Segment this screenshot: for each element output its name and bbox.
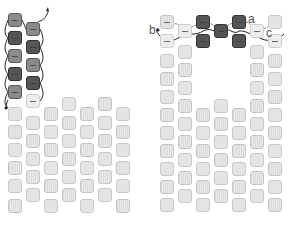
- bead: [250, 24, 264, 38]
- bead: [160, 126, 174, 140]
- bead: [44, 143, 58, 157]
- bead: [98, 152, 112, 166]
- bead: [44, 125, 58, 139]
- bead: [196, 144, 210, 158]
- bead: [232, 180, 246, 194]
- bead: [250, 135, 264, 149]
- bead: [178, 45, 192, 59]
- bead: [250, 153, 264, 167]
- bead: [178, 135, 192, 149]
- bead: [268, 162, 282, 176]
- bead: [232, 144, 246, 158]
- bead: [116, 179, 130, 193]
- bead: [62, 116, 76, 130]
- bead: [178, 24, 192, 38]
- bead: [250, 63, 264, 77]
- bead: [160, 72, 174, 86]
- bead: [80, 199, 94, 213]
- bead: [178, 189, 192, 203]
- bead: [98, 170, 112, 184]
- bead: [8, 161, 22, 175]
- bead: [80, 107, 94, 121]
- bead: [26, 40, 40, 54]
- bead: [98, 97, 112, 111]
- bead: [116, 199, 130, 213]
- bead: [214, 135, 228, 149]
- bead: [160, 180, 174, 194]
- bead: [160, 90, 174, 104]
- bead: [250, 171, 264, 185]
- bead: [8, 49, 22, 63]
- bead: [8, 13, 22, 27]
- bead: [26, 134, 40, 148]
- bead: [160, 34, 174, 48]
- bead: [250, 189, 264, 203]
- bead: [178, 63, 192, 77]
- bead: [26, 116, 40, 130]
- bead: [196, 126, 210, 140]
- bead: [232, 198, 246, 212]
- bead: [268, 198, 282, 212]
- bead: [268, 72, 282, 86]
- bead: [214, 189, 228, 203]
- bead: [26, 22, 40, 36]
- bead: [250, 99, 264, 113]
- bead: [214, 153, 228, 167]
- label-c: c: [266, 27, 272, 39]
- bead: [232, 162, 246, 176]
- bead: [80, 161, 94, 175]
- bead: [62, 188, 76, 202]
- bead: [214, 99, 228, 113]
- bead: [160, 108, 174, 122]
- bead: [8, 107, 22, 121]
- bead: [214, 24, 228, 38]
- beadwork-diagram: b a c: [0, 0, 292, 225]
- bead: [268, 90, 282, 104]
- bead: [196, 15, 210, 29]
- bead: [8, 85, 22, 99]
- bead: [178, 171, 192, 185]
- bead: [214, 117, 228, 131]
- bead: [268, 144, 282, 158]
- bead: [196, 108, 210, 122]
- bead: [178, 99, 192, 113]
- bead: [116, 125, 130, 139]
- bead: [62, 170, 76, 184]
- bead: [160, 162, 174, 176]
- bead: [250, 117, 264, 131]
- bead: [196, 162, 210, 176]
- bead: [250, 81, 264, 95]
- bead: [8, 67, 22, 81]
- bead: [26, 58, 40, 72]
- bead: [160, 54, 174, 68]
- bead: [8, 125, 22, 139]
- bead: [160, 144, 174, 158]
- bead: [268, 54, 282, 68]
- bead: [268, 180, 282, 194]
- bead: [178, 81, 192, 95]
- bead: [62, 97, 76, 111]
- bead: [44, 199, 58, 213]
- bead: [232, 126, 246, 140]
- bead: [160, 198, 174, 212]
- bead: [26, 94, 40, 108]
- bead: [26, 76, 40, 90]
- bead: [196, 180, 210, 194]
- label-b: b: [149, 24, 156, 36]
- bead: [80, 143, 94, 157]
- bead: [160, 15, 174, 29]
- bead: [26, 152, 40, 166]
- bead: [80, 179, 94, 193]
- bead: [116, 143, 130, 157]
- bead: [62, 134, 76, 148]
- bead: [44, 107, 58, 121]
- bead: [8, 199, 22, 213]
- bead: [62, 152, 76, 166]
- bead: [80, 125, 94, 139]
- bead: [232, 108, 246, 122]
- bead: [98, 188, 112, 202]
- bead: [196, 34, 210, 48]
- bead: [44, 161, 58, 175]
- bead: [214, 171, 228, 185]
- bead: [98, 116, 112, 130]
